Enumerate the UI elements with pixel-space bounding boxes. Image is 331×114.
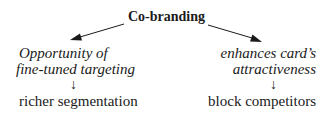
benefit-text-line-2: attractiveness [206, 61, 316, 77]
arrow-down-right-icon [208, 25, 262, 42]
outcome-text: richer segmentation [14, 93, 138, 109]
outcome-text: block competitors [206, 93, 316, 109]
root-node-co-branding: Co-branding [128, 9, 205, 25]
arrow-down-left-icon [70, 24, 124, 41]
branch-right: enhances card’s attractiveness ↓ block c… [206, 45, 316, 109]
arrow-down-icon: ↓ [14, 77, 138, 93]
branch-left: Opportunity of fine-tuned targeting ↓ ri… [14, 45, 138, 109]
arrow-down-icon: ↓ [206, 77, 316, 93]
benefit-text-line-2: fine-tuned targeting [14, 61, 138, 77]
benefit-text-line-1: Opportunity of [14, 45, 138, 61]
benefit-text-line-1: enhances card’s [206, 45, 316, 61]
